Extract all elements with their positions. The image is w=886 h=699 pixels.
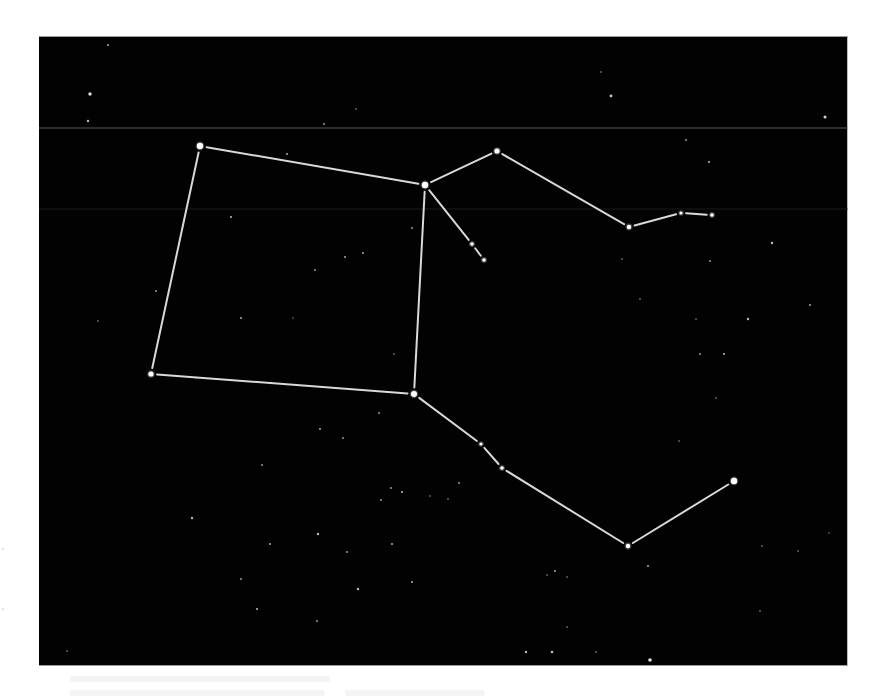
constellation-line: [419, 398, 477, 441]
field-star: [715, 397, 717, 399]
field-star: [621, 258, 623, 260]
field-star: [261, 464, 263, 466]
constellation-star: [627, 225, 631, 229]
field-star: [554, 570, 556, 572]
field-star: [317, 533, 319, 535]
field-star: [678, 440, 680, 442]
field-star: [648, 658, 652, 662]
field-star: [362, 252, 364, 254]
constellation-star: [411, 391, 417, 397]
constellation-line: [431, 154, 491, 183]
star-field: [39, 37, 848, 667]
constellation-line: [429, 190, 469, 240]
field-star: [269, 543, 271, 545]
field-star: [393, 353, 395, 355]
field-star: [97, 320, 99, 322]
field-star: [797, 550, 799, 552]
field-star: [551, 651, 554, 654]
scan-artifact: [2, 548, 4, 550]
constellation-line: [484, 448, 498, 464]
field-star: [401, 491, 403, 493]
field-star: [685, 139, 687, 141]
field-star: [344, 256, 346, 258]
field-star: [824, 116, 827, 119]
constellation-star: [197, 143, 203, 149]
field-star: [411, 581, 413, 583]
field-star: [525, 651, 527, 653]
constellation-star: [470, 242, 474, 246]
field-star: [240, 317, 242, 319]
constellation-line: [152, 153, 198, 368]
constellation-line: [635, 214, 677, 225]
scan-seam-lines: [39, 128, 848, 209]
constellation-star: [679, 211, 682, 214]
field-star: [88, 92, 91, 95]
field-star: [708, 161, 710, 163]
field-star: [411, 227, 413, 229]
constellation-line: [414, 192, 424, 388]
field-star: [286, 153, 288, 155]
field-star: [316, 620, 318, 622]
field-star: [346, 551, 348, 553]
field-star: [699, 353, 701, 355]
field-star: [595, 651, 597, 653]
background-stars: [66, 44, 830, 662]
field-star: [357, 588, 359, 590]
field-star: [546, 574, 548, 576]
field-star: [191, 517, 193, 519]
constellation-line: [475, 248, 481, 256]
constellation-star: [710, 213, 714, 217]
field-star: [355, 108, 357, 110]
field-star: [828, 532, 829, 533]
constellation-stars: [147, 142, 738, 550]
field-star: [747, 318, 749, 320]
constellation-lines: [152, 147, 728, 543]
constellation-line: [686, 213, 707, 214]
constellation-line: [507, 471, 624, 543]
field-star: [759, 610, 761, 612]
constellation-line: [157, 374, 407, 393]
field-star: [240, 578, 242, 580]
field-star: [391, 543, 393, 545]
field-star: [155, 290, 157, 292]
ghost-text-line: [345, 690, 485, 696]
field-star: [447, 498, 449, 500]
constellation-line: [207, 147, 419, 184]
field-star: [709, 260, 711, 262]
field-star: [323, 123, 325, 125]
field-star: [256, 608, 258, 610]
field-star: [230, 216, 232, 218]
constellation-star: [494, 148, 499, 153]
constellation-star: [422, 182, 428, 188]
constellation-star: [482, 258, 486, 262]
constellation-line: [633, 485, 728, 544]
constellation-star: [731, 478, 737, 484]
field-star: [66, 650, 68, 652]
field-star: [380, 499, 382, 501]
field-star: [378, 412, 380, 414]
constellation-star: [148, 371, 153, 376]
field-star: [107, 44, 109, 46]
field-star: [647, 565, 649, 567]
field-star: [458, 482, 460, 484]
field-star: [87, 120, 89, 122]
constellation-star: [626, 544, 630, 548]
field-star: [566, 576, 568, 578]
constellation-star: [500, 466, 504, 470]
field-star: [695, 318, 697, 320]
field-star: [723, 353, 725, 355]
field-star: [761, 545, 763, 547]
star-chart-plate: [39, 36, 848, 666]
field-star: [390, 487, 392, 489]
field-star: [610, 95, 613, 98]
field-star: [600, 71, 602, 73]
ghost-text-line: [70, 676, 330, 682]
field-star: [771, 242, 773, 244]
ghost-text-line: [70, 690, 325, 696]
scan-artifact: [2, 608, 4, 610]
field-star: [292, 317, 293, 318]
field-star: [429, 495, 431, 497]
field-star: [639, 298, 641, 300]
field-star: [809, 304, 811, 306]
field-star: [566, 626, 568, 628]
